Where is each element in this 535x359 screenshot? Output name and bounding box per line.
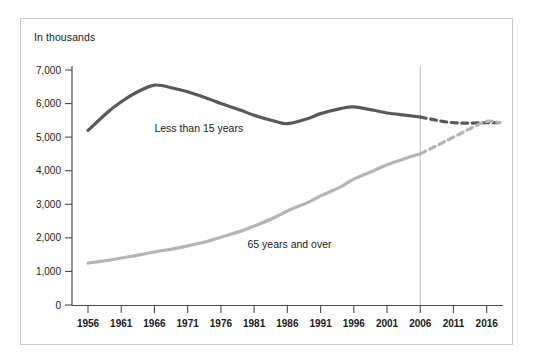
y-tick-label: 5,000 bbox=[36, 132, 61, 143]
y-tick-label: 3,000 bbox=[36, 199, 61, 210]
x-axis-group: 1956196119661971197619811986199119962001… bbox=[72, 305, 503, 329]
x-tick-label: 1981 bbox=[243, 318, 266, 329]
y-tick-label: 2,000 bbox=[36, 232, 61, 243]
x-tick-label: 2011 bbox=[443, 318, 465, 329]
y-axis-group: 01,0002,0003,0004,0005,0006,0007,000 bbox=[36, 65, 72, 311]
x-tick-label: 1956 bbox=[77, 318, 100, 329]
x-tick-label: 2001 bbox=[376, 318, 399, 329]
series-line-less-than-15-years bbox=[88, 85, 420, 130]
y-tick-label: 7,000 bbox=[36, 65, 61, 76]
x-tick-label: 2006 bbox=[409, 318, 432, 329]
series-path-group bbox=[88, 85, 500, 263]
series-label-less-than-15-years: Less than 15 years bbox=[154, 122, 243, 134]
x-tick-label: 1991 bbox=[309, 318, 332, 329]
x-tick-label: 1976 bbox=[210, 318, 233, 329]
x-tick-label: 1961 bbox=[110, 318, 133, 329]
y-tick-group: 01,0002,0003,0004,0005,0006,0007,000 bbox=[36, 65, 72, 311]
x-tick-label: 2016 bbox=[476, 318, 499, 329]
x-tick-group: 1956196119661971197619811986199119962001… bbox=[77, 305, 498, 329]
x-tick-label: 1996 bbox=[343, 318, 366, 329]
series-label-65-years-and-over: 65 years and over bbox=[247, 238, 332, 250]
x-tick-label: 1971 bbox=[177, 318, 200, 329]
x-tick-label: 1966 bbox=[143, 318, 166, 329]
y-tick-label: 0 bbox=[55, 300, 61, 311]
y-tick-label: 1,000 bbox=[36, 266, 61, 277]
x-tick-label: 1986 bbox=[276, 318, 299, 329]
line-chart: 01,0002,0003,0004,0005,0006,0007,000 195… bbox=[0, 0, 535, 359]
y-tick-label: 4,000 bbox=[36, 165, 61, 176]
y-tick-label: 6,000 bbox=[36, 98, 61, 109]
series-projected-line-65-years-and-over bbox=[420, 121, 500, 154]
